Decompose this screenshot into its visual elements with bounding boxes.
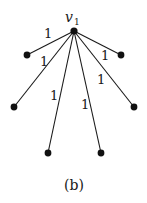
node-leaf-6: [98, 150, 105, 157]
edge-v1-leaf-6: [74, 31, 101, 153]
node-leaf-3: [11, 104, 18, 111]
node-leaf-2: [118, 52, 125, 59]
edge-v1-leaf-3: [14, 31, 74, 107]
vertex-label-v1-subscript: 1: [74, 17, 80, 27]
edge-weight-label: 1: [97, 72, 105, 87]
vertex-label-v1: v: [65, 9, 73, 25]
node-leaf-5: [45, 150, 52, 157]
edge-weight-label: 1: [44, 26, 52, 41]
edge-v1-leaf-4: [74, 31, 134, 107]
edge-v1-leaf-2: [74, 31, 121, 55]
edge-weight-label: 1: [81, 97, 89, 112]
star-graph-diagram: 1 1 1 1 1 1 v 1 (b): [0, 0, 147, 203]
node-v1: [70, 27, 77, 34]
node-leaf-1: [24, 52, 31, 59]
edge-weight-label: 1: [40, 54, 48, 69]
node-leaf-4: [131, 104, 138, 111]
edge-weight-label: 1: [101, 48, 109, 63]
edge-weight-label: 1: [50, 88, 58, 103]
figure-caption: (b): [64, 177, 84, 193]
